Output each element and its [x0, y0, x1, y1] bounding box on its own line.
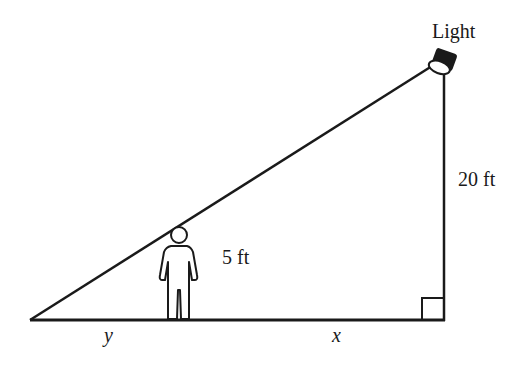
person-icon — [160, 227, 198, 319]
person-height-label: 5 ft — [222, 246, 250, 268]
distance-label: x — [331, 324, 341, 346]
light-label: Light — [432, 20, 476, 43]
shadow-length-label: y — [102, 324, 113, 347]
light-ray — [30, 66, 432, 320]
shadow-diagram: Light 20 ft 5 ft y x — [0, 0, 530, 365]
light-icon — [427, 47, 458, 78]
right-angle-marker — [422, 298, 444, 320]
light-height-label: 20 ft — [458, 168, 496, 190]
